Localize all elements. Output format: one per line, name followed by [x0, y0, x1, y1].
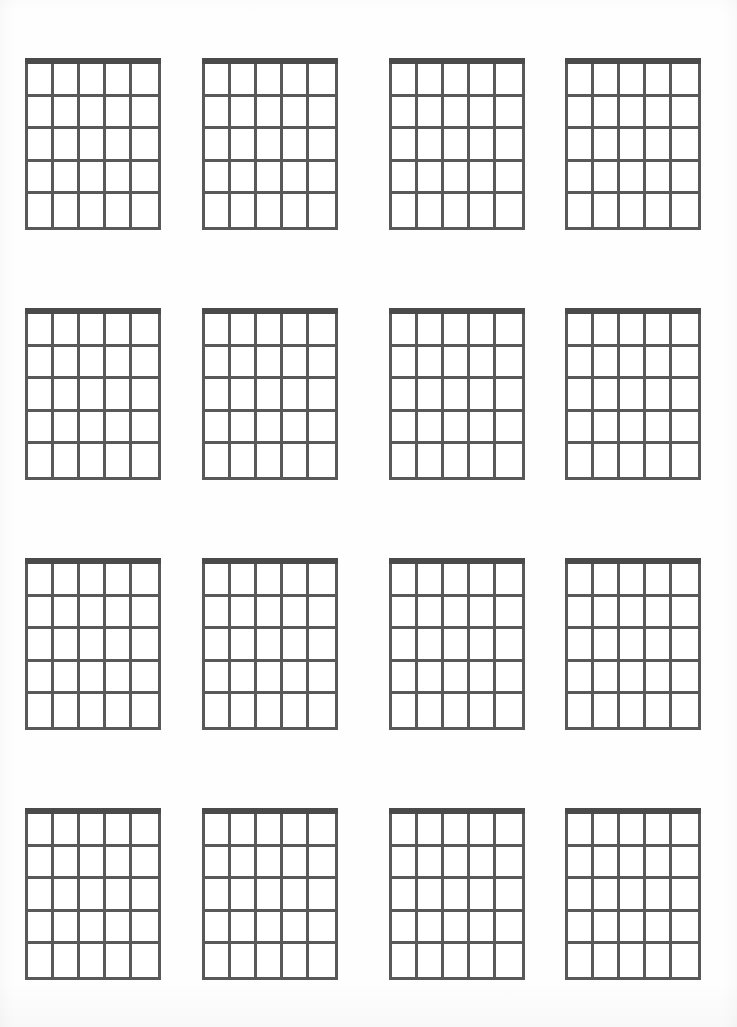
fret-cell-r4-c4[interactable]	[646, 162, 672, 195]
fret-cell-r1-c3[interactable]	[80, 314, 106, 347]
fret-cell-r3-c4[interactable]	[106, 129, 132, 162]
fret-cell-r4-c5[interactable]	[672, 912, 698, 945]
fret-cell-r2-c3[interactable]	[620, 97, 646, 130]
fret-cell-r4-c4[interactable]	[470, 912, 496, 945]
fretboard-grid[interactable]	[389, 64, 525, 230]
fret-cell-r5-c1[interactable]	[28, 444, 54, 477]
fret-cell-r2-c2[interactable]	[231, 847, 257, 880]
fret-cell-r1-c1[interactable]	[28, 64, 54, 97]
chord-diagram-6[interactable]	[202, 308, 338, 480]
fret-cell-r3-c2[interactable]	[54, 379, 80, 412]
fret-cell-r1-c4[interactable]	[283, 564, 309, 597]
fret-cell-r4-c5[interactable]	[309, 662, 335, 695]
fret-cell-r1-c2[interactable]	[231, 814, 257, 847]
fret-cell-r3-c3[interactable]	[257, 379, 283, 412]
chord-diagram-5[interactable]	[25, 308, 161, 480]
fret-cell-r3-c3[interactable]	[257, 879, 283, 912]
fret-cell-r3-c4[interactable]	[283, 629, 309, 662]
fret-cell-r5-c5[interactable]	[672, 944, 698, 977]
fret-cell-r4-c3[interactable]	[80, 412, 106, 445]
fret-cell-r5-c5[interactable]	[132, 444, 158, 477]
fret-cell-r5-c4[interactable]	[106, 444, 132, 477]
fret-cell-r1-c3[interactable]	[80, 564, 106, 597]
fret-cell-r2-c3[interactable]	[444, 847, 470, 880]
fret-cell-r5-c5[interactable]	[496, 444, 522, 477]
fret-cell-r3-c4[interactable]	[106, 379, 132, 412]
fret-cell-r3-c3[interactable]	[620, 129, 646, 162]
fret-cell-r4-c1[interactable]	[568, 162, 594, 195]
fret-cell-r1-c1[interactable]	[568, 564, 594, 597]
fret-cell-r1-c1[interactable]	[392, 64, 418, 97]
fretboard-grid[interactable]	[565, 64, 701, 230]
fret-cell-r3-c4[interactable]	[646, 129, 672, 162]
fret-cell-r2-c2[interactable]	[54, 347, 80, 380]
fret-cell-r3-c5[interactable]	[309, 879, 335, 912]
fret-cell-r3-c3[interactable]	[444, 629, 470, 662]
fret-cell-r1-c2[interactable]	[594, 314, 620, 347]
fret-cell-r5-c5[interactable]	[496, 194, 522, 227]
fret-cell-r4-c4[interactable]	[470, 412, 496, 445]
fret-cell-r1-c3[interactable]	[257, 64, 283, 97]
fret-cell-r3-c4[interactable]	[646, 629, 672, 662]
fret-cell-r3-c2[interactable]	[594, 879, 620, 912]
fretboard-grid[interactable]	[565, 814, 701, 980]
fretboard-grid[interactable]	[25, 314, 161, 480]
fret-cell-r3-c2[interactable]	[231, 879, 257, 912]
fretboard-grid[interactable]	[25, 564, 161, 730]
fret-cell-r1-c3[interactable]	[620, 564, 646, 597]
fret-cell-r3-c1[interactable]	[28, 879, 54, 912]
fret-cell-r5-c1[interactable]	[205, 194, 231, 227]
fret-cell-r3-c4[interactable]	[106, 629, 132, 662]
fret-cell-r4-c2[interactable]	[594, 912, 620, 945]
fret-cell-r3-c1[interactable]	[568, 879, 594, 912]
chord-diagram-16[interactable]	[565, 808, 701, 980]
fret-cell-r4-c4[interactable]	[106, 162, 132, 195]
fret-cell-r2-c1[interactable]	[392, 97, 418, 130]
fret-cell-r3-c2[interactable]	[418, 379, 444, 412]
fret-cell-r5-c5[interactable]	[496, 944, 522, 977]
fret-cell-r1-c4[interactable]	[646, 814, 672, 847]
fret-cell-r2-c1[interactable]	[205, 97, 231, 130]
fret-cell-r4-c2[interactable]	[594, 662, 620, 695]
fret-cell-r1-c1[interactable]	[205, 64, 231, 97]
fret-cell-r4-c2[interactable]	[54, 412, 80, 445]
fret-cell-r3-c3[interactable]	[620, 379, 646, 412]
fret-cell-r2-c4[interactable]	[470, 597, 496, 630]
fretboard-grid[interactable]	[202, 314, 338, 480]
fret-cell-r2-c5[interactable]	[496, 347, 522, 380]
fretboard-grid[interactable]	[25, 64, 161, 230]
fret-cell-r5-c1[interactable]	[205, 694, 231, 727]
fret-cell-r4-c4[interactable]	[106, 662, 132, 695]
fret-cell-r5-c1[interactable]	[392, 944, 418, 977]
fret-cell-r5-c3[interactable]	[257, 694, 283, 727]
fret-cell-r1-c2[interactable]	[418, 64, 444, 97]
fret-cell-r5-c3[interactable]	[80, 194, 106, 227]
fret-cell-r3-c3[interactable]	[80, 629, 106, 662]
fret-cell-r5-c4[interactable]	[646, 944, 672, 977]
fret-cell-r4-c1[interactable]	[205, 412, 231, 445]
fret-cell-r2-c3[interactable]	[257, 597, 283, 630]
fret-cell-r2-c1[interactable]	[205, 847, 231, 880]
fret-cell-r4-c2[interactable]	[54, 162, 80, 195]
fret-cell-r2-c2[interactable]	[418, 597, 444, 630]
fret-cell-r1-c4[interactable]	[106, 314, 132, 347]
fret-cell-r1-c4[interactable]	[646, 64, 672, 97]
fret-cell-r1-c5[interactable]	[496, 314, 522, 347]
fret-cell-r5-c3[interactable]	[444, 944, 470, 977]
fret-cell-r3-c1[interactable]	[205, 879, 231, 912]
fret-cell-r3-c4[interactable]	[470, 629, 496, 662]
fret-cell-r5-c2[interactable]	[54, 194, 80, 227]
fretboard-grid[interactable]	[389, 314, 525, 480]
fret-cell-r4-c1[interactable]	[28, 912, 54, 945]
fret-cell-r2-c5[interactable]	[132, 847, 158, 880]
fret-cell-r2-c3[interactable]	[444, 97, 470, 130]
fret-cell-r2-c1[interactable]	[568, 347, 594, 380]
fret-cell-r1-c3[interactable]	[80, 814, 106, 847]
fret-cell-r3-c1[interactable]	[205, 379, 231, 412]
fret-cell-r5-c3[interactable]	[444, 194, 470, 227]
fret-cell-r3-c3[interactable]	[257, 629, 283, 662]
fret-cell-r5-c4[interactable]	[283, 944, 309, 977]
fret-cell-r1-c5[interactable]	[309, 64, 335, 97]
fret-cell-r5-c2[interactable]	[231, 444, 257, 477]
fret-cell-r2-c3[interactable]	[620, 597, 646, 630]
